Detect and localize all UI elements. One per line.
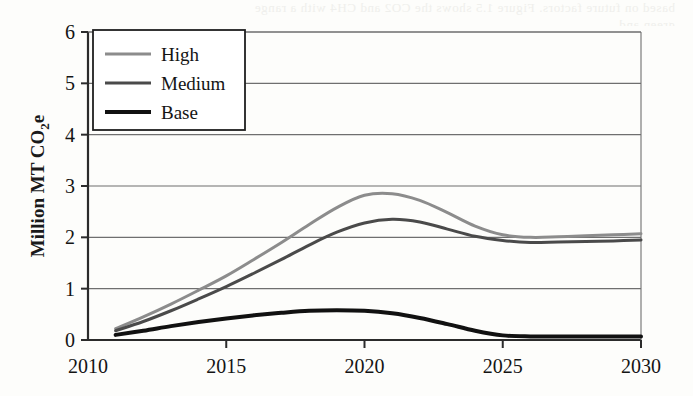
svg-text:Million MT CO2e: Million MT CO2e [27, 115, 52, 257]
y-tick-label: 5 [65, 72, 75, 94]
y-title-main: Million MT CO [27, 130, 48, 257]
line-chart: 0123456 20102015202020252030 Million MT … [0, 0, 693, 396]
legend-label-medium: Medium [161, 73, 226, 94]
y-axis-ticks: 0123456 [65, 21, 88, 351]
x-axis-ticks: 20102015202020252030 [68, 340, 661, 377]
x-tick-label: 2015 [206, 355, 246, 377]
x-tick-label: 2030 [621, 355, 661, 377]
x-tick-label: 2020 [345, 355, 385, 377]
y-tick-label: 1 [65, 278, 75, 300]
y-axis-title: Million MT CO2e [27, 115, 52, 257]
series-line-high [116, 193, 641, 329]
bleed-line-1: based on future factors. Figure 1.5 show… [254, 0, 675, 15]
y-title-suffix: e [27, 115, 48, 123]
chart-figure: based on future factors. Figure 1.5 show… [0, 0, 693, 396]
legend-label-base: Base [161, 102, 198, 123]
data-series-group [116, 193, 641, 336]
x-tick-label: 2010 [68, 355, 108, 377]
page-bleed-through: based on future factors. Figure 1.5 show… [0, 0, 693, 26]
y-tick-label: 4 [65, 124, 75, 146]
bleed-line-2: green and [0, 17, 675, 26]
x-tick-label: 2025 [483, 355, 523, 377]
y-tick-label: 2 [65, 226, 75, 248]
y-tick-label: 0 [65, 329, 75, 351]
y-tick-label: 3 [65, 175, 75, 197]
chart-legend: HighMediumBase [93, 30, 245, 130]
series-line-base [116, 310, 641, 336]
legend-label-high: High [161, 44, 200, 65]
